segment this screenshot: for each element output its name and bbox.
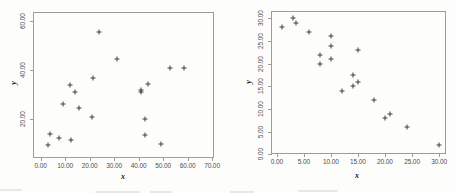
cutoff-text-artifact — [150, 191, 172, 193]
x-axis-tick-label: 10.00 — [323, 159, 339, 166]
y-axis-tick-label: 10.00 — [258, 101, 265, 117]
cutoff-text-artifact — [230, 191, 254, 193]
y-axis-tick-label: 25.00 — [258, 33, 265, 49]
y-axis-tick — [268, 109, 272, 110]
y-axis-tick — [268, 154, 272, 155]
right-x-axis-title: x — [355, 172, 359, 180]
scanned-figure-page: y 0.0010.0020.0030.0040.0050.0060.0070.0… — [0, 0, 456, 193]
data-point-marker — [328, 43, 333, 48]
x-axis-tick — [439, 153, 440, 157]
cutoff-text-artifact — [95, 191, 140, 193]
data-point-marker — [382, 116, 387, 121]
data-point-marker — [355, 48, 360, 53]
cutoff-text-artifact — [298, 190, 338, 192]
x-axis-tick-label: 30.00 — [431, 159, 447, 166]
x-axis-tick — [358, 153, 359, 157]
y-axis-tick-label: 0.00 — [258, 148, 265, 160]
y-axis-tick — [268, 18, 272, 19]
y-axis-tick-label: 30.00 — [258, 10, 265, 26]
data-point-marker — [372, 97, 377, 102]
y-axis-tick — [268, 86, 272, 87]
scatter-plot-right: y 0.005.0010.0015.0020.0025.0030.000.005… — [0, 0, 456, 193]
x-axis-tick — [277, 153, 278, 157]
data-point-marker — [339, 88, 344, 93]
data-point-marker — [404, 125, 409, 130]
right-plot-area: 0.005.0010.0015.0020.0025.0030.000.005.0… — [271, 11, 446, 154]
data-point-marker — [328, 57, 333, 62]
x-axis-tick-label: 20.00 — [377, 159, 393, 166]
cutoff-text-artifact — [0, 189, 22, 191]
x-axis-tick — [331, 153, 332, 157]
x-axis-tick — [385, 153, 386, 157]
x-axis-tick — [304, 153, 305, 157]
y-axis-tick-label: 20.00 — [258, 56, 265, 72]
data-point-marker — [318, 52, 323, 57]
y-axis-tick-label: 5.00 — [258, 126, 265, 138]
x-axis-tick-label: 5.00 — [298, 159, 310, 166]
x-axis-tick-label: 15.00 — [350, 159, 366, 166]
data-point-marker — [280, 25, 285, 30]
right-y-axis-title: y — [245, 80, 253, 84]
data-point-marker — [307, 29, 312, 34]
x-axis-tick-label: 25.00 — [404, 159, 420, 166]
data-point-marker — [350, 73, 355, 78]
data-point-marker — [318, 61, 323, 66]
data-point-marker — [350, 84, 355, 89]
x-axis-tick — [412, 153, 413, 157]
data-point-marker — [328, 34, 333, 39]
data-point-marker — [388, 111, 393, 116]
y-axis-tick-label: 15.00 — [258, 78, 265, 94]
data-point-marker — [437, 143, 442, 148]
data-point-marker — [355, 79, 360, 84]
y-axis-tick — [268, 64, 272, 65]
x-axis-tick-label: 0.00 — [271, 159, 283, 166]
y-axis-tick — [268, 132, 272, 133]
y-axis-tick — [268, 41, 272, 42]
data-point-marker — [293, 20, 298, 25]
